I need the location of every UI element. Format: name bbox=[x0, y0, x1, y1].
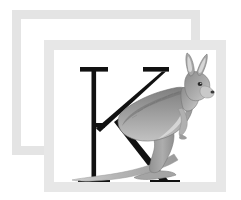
front-frame bbox=[44, 40, 226, 192]
kangaroo-eye-highlight bbox=[200, 83, 201, 84]
letter-k-kangaroo-illustration bbox=[54, 50, 216, 182]
frame-mat bbox=[54, 50, 216, 182]
artwork-title: K is for Kangaroo bbox=[0, 0, 1, 1]
kangaroo-eye bbox=[198, 82, 203, 86]
kangaroo-nose bbox=[211, 90, 215, 93]
artwork-canvas: K is for Kangaroo bbox=[0, 0, 241, 200]
